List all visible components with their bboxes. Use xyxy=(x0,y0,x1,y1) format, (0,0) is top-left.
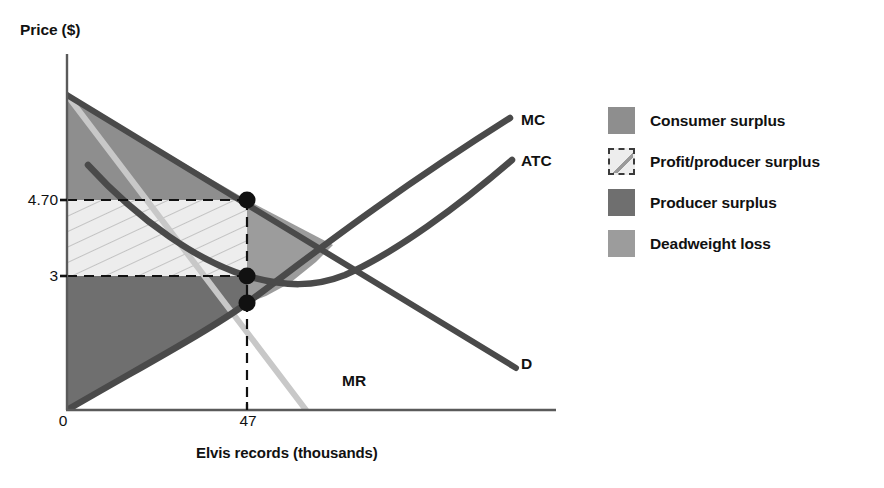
y-axis-title: Price ($) xyxy=(20,21,80,39)
x-tick-label-47: 47 xyxy=(230,412,266,430)
legend-label-deadweight-loss: Deadweight loss xyxy=(650,235,771,253)
plot-area: Price ($) Elvis records (thousands) 4.70… xyxy=(0,0,600,488)
x-axis-title: Elvis records (thousands) xyxy=(196,444,378,461)
average-total-cost-label: ATC xyxy=(521,152,552,170)
legend-item-consumer-surplus: Consumer surplus xyxy=(608,100,884,141)
profit-surplus-swatch xyxy=(608,148,635,175)
demand-label: D xyxy=(521,355,532,373)
producer-surplus-swatch xyxy=(608,189,635,216)
deadweight-loss-swatch xyxy=(608,230,635,257)
legend-label-producer-surplus: Producer surplus xyxy=(650,194,777,212)
marginal-cost-label: MC xyxy=(521,111,545,129)
legend-item-producer-surplus: Producer surplus xyxy=(608,182,884,223)
legend-item-profit-surplus: Profit/producer surplus xyxy=(608,141,884,182)
plot-svg xyxy=(0,0,600,488)
legend-label-profit-surplus: Profit/producer surplus xyxy=(650,153,820,171)
monopoly-price-point xyxy=(239,192,256,209)
legend-label-consumer-surplus: Consumer surplus xyxy=(650,112,785,130)
legend-item-deadweight-loss: Deadweight loss xyxy=(608,223,884,264)
legend: Consumer surplus Profit/producer surplus… xyxy=(608,100,884,264)
marginal-revenue-label: MR xyxy=(342,372,366,390)
y-tick-label-3: 3 xyxy=(8,267,58,285)
atc-point xyxy=(239,268,256,285)
economics-surplus-figure: Price ($) Elvis records (thousands) 4.70… xyxy=(0,0,884,488)
y-tick-label-470: 4.70 xyxy=(8,191,58,209)
consumer-surplus-swatch xyxy=(608,107,635,134)
mc-point xyxy=(239,295,256,312)
x-tick-label-0: 0 xyxy=(48,412,78,430)
